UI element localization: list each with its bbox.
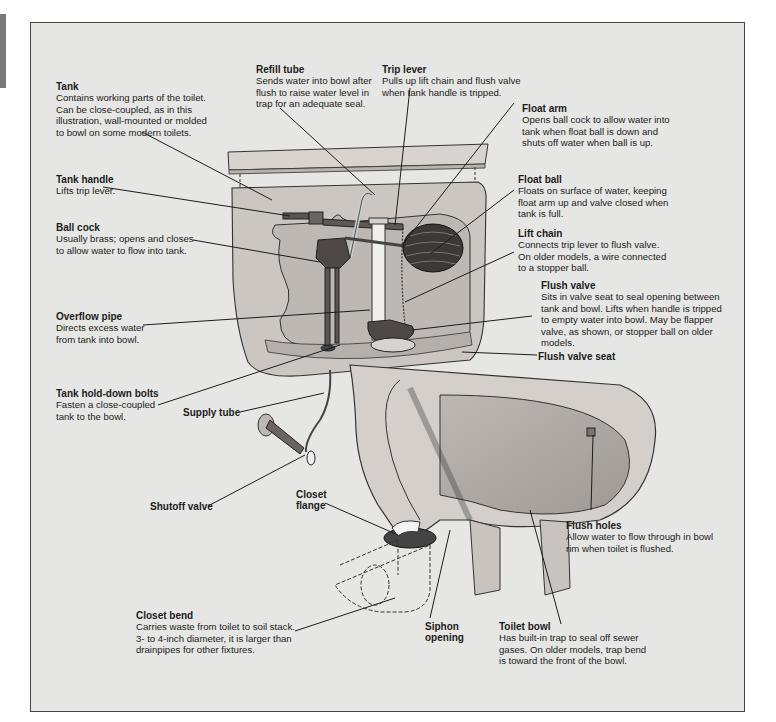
label-flush-holes-desc: Allow water to flow through in bowl rim … xyxy=(566,531,713,554)
label-overflow-pipe-desc: Directs excess water from tank into bowl… xyxy=(56,322,145,345)
label-toilet-bowl-title: Toilet bowl xyxy=(499,621,646,632)
label-overflow-pipe: Overflow pipe Directs excess water from … xyxy=(56,311,145,345)
label-float-arm: Float arm Opens ball cock to allow water… xyxy=(522,103,670,149)
label-closet-bend-desc: Carries waste from toilet to soil stack.… xyxy=(136,621,295,655)
label-trip-lever-title: Trip lever xyxy=(382,64,521,75)
label-tank-handle: Tank handle Lifts trip lever. xyxy=(56,174,115,197)
label-tank-handle-title: Tank handle xyxy=(56,174,115,185)
label-siphon-opening: Siphon opening xyxy=(425,621,464,644)
label-supply-tube: Supply tube xyxy=(183,407,240,418)
label-toilet-bowl: Toilet bowl Has built-in trap to seal of… xyxy=(499,621,646,667)
label-float-ball-desc: Floats on surface of water, keeping floa… xyxy=(518,185,668,219)
label-refill-tube: Refill tube Sends water into bowl after … xyxy=(256,64,372,110)
label-ball-cock-desc: Usually brass; opens and closes to allow… xyxy=(56,233,194,256)
closet-bend xyxy=(335,540,430,612)
label-float-arm-title: Float arm xyxy=(522,103,670,114)
label-refill-tube-title: Refill tube xyxy=(256,64,372,75)
flush-valve xyxy=(368,320,415,352)
tank-lid xyxy=(228,144,488,188)
label-flush-valve-title: Flush valve xyxy=(541,280,722,291)
label-tank-hold-down-bolts: Tank hold-down bolts Fasten a close-coup… xyxy=(56,388,159,422)
toilet-bowl xyxy=(350,365,656,595)
label-tank-handle-desc: Lifts trip lever. xyxy=(56,185,115,196)
label-float-ball: Float ball Floats on surface of water, k… xyxy=(518,174,668,220)
label-tank-hold-down-bolts-title: Tank hold-down bolts xyxy=(56,388,159,399)
label-trip-lever: Trip lever Pulls up lift chain and flush… xyxy=(382,64,521,98)
supply-tube-and-shutoff-valve xyxy=(258,370,330,465)
label-tank-hold-down-bolts-desc: Fasten a close-coupled tank to the bowl. xyxy=(56,399,159,422)
label-toilet-bowl-desc: Has built-in trap to seal off sewer gase… xyxy=(499,632,646,666)
label-ball-cock: Ball cock Usually brass; opens and close… xyxy=(56,222,194,256)
float-ball xyxy=(403,224,463,272)
label-tank-desc: Contains working parts of the toilet. Ca… xyxy=(56,92,207,138)
label-tank: Tank Contains working parts of the toile… xyxy=(56,81,207,138)
label-float-ball-title: Float ball xyxy=(518,174,668,185)
label-tank-title: Tank xyxy=(56,81,207,92)
label-closet-flange: Closet flange xyxy=(296,489,327,512)
label-flush-holes: Flush holes Allow water to flow through … xyxy=(566,520,713,554)
label-flush-valve-seat: Flush valve seat xyxy=(538,351,615,362)
label-closet-bend: Closet bend Carries waste from toilet to… xyxy=(136,610,295,656)
label-lift-chain-title: Lift chain xyxy=(518,228,666,239)
label-flush-valve: Flush valve Sits in valve seat to seal o… xyxy=(541,280,722,348)
label-closet-bend-title: Closet bend xyxy=(136,610,295,621)
label-ball-cock-title: Ball cock xyxy=(56,222,194,233)
label-lift-chain: Lift chain Connects trip lever to flush … xyxy=(518,228,666,274)
label-shutoff-valve: Shutoff valve xyxy=(150,501,213,512)
label-flush-holes-title: Flush holes xyxy=(566,520,713,531)
label-refill-tube-desc: Sends water into bowl after flush to rai… xyxy=(256,75,372,109)
label-flush-valve-desc: Sits in valve seat to seal opening betwe… xyxy=(541,291,722,348)
label-overflow-pipe-title: Overflow pipe xyxy=(56,311,145,322)
label-float-arm-desc: Opens ball cock to allow water into tank… xyxy=(522,114,670,148)
label-trip-lever-desc: Pulls up lift chain and flush valve when… xyxy=(382,75,521,98)
label-lift-chain-desc: Connects trip lever to flush valve. On o… xyxy=(518,239,666,273)
